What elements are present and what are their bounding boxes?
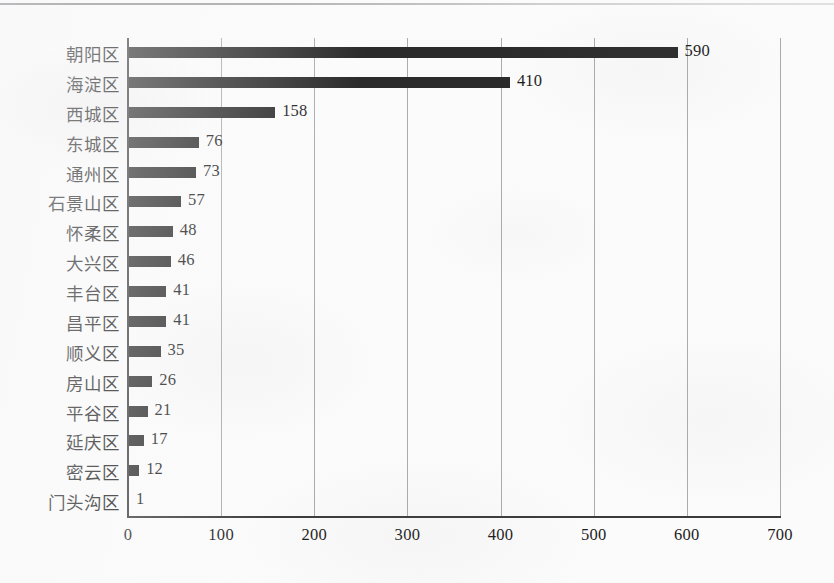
- bar-row: 48: [128, 217, 780, 246]
- bar-value-label: 46: [178, 250, 195, 270]
- bar-value-label: 410: [517, 71, 542, 91]
- bar: [128, 107, 275, 118]
- category-label: 通州区: [0, 161, 120, 186]
- y-axis-line: [127, 38, 129, 517]
- bar-value-label: 35: [168, 340, 185, 360]
- category-label: 顺义区: [0, 340, 120, 365]
- scan-edge-line: [0, 3, 834, 5]
- bar-row: 1: [128, 486, 780, 515]
- bar: [128, 226, 173, 237]
- category-axis-labels: 朝阳区海淀区西城区东城区通州区石景山区怀柔区大兴区丰台区昌平区顺义区房山区平谷区…: [0, 38, 120, 516]
- bar-row: 410: [128, 68, 780, 97]
- bar-row: 76: [128, 128, 780, 157]
- bar: [128, 137, 199, 148]
- x-tick-label: 700: [767, 525, 793, 545]
- bar: [128, 196, 181, 207]
- bar-row: 12: [128, 456, 780, 485]
- bar-row: 73: [128, 158, 780, 187]
- category-label: 石景山区: [0, 190, 120, 215]
- bar-row: 26: [128, 367, 780, 396]
- bar: [128, 256, 171, 267]
- x-tick-label: 300: [395, 525, 421, 545]
- x-tick-label: 100: [208, 525, 234, 545]
- gridline: [780, 38, 781, 516]
- category-label: 丰台区: [0, 280, 120, 305]
- bar: [128, 167, 196, 178]
- x-tick-label: 0: [124, 525, 133, 545]
- bar-value-label: 57: [188, 190, 205, 210]
- x-axis-line: [127, 516, 781, 518]
- bar-value-label: 41: [173, 280, 190, 300]
- bar: [128, 435, 144, 446]
- bar-row: 21: [128, 397, 780, 426]
- bar-value-label: 158: [282, 101, 307, 121]
- category-label: 密云区: [0, 459, 120, 484]
- bar-row: 46: [128, 247, 780, 276]
- bar-chart-figure: 朝阳区海淀区西城区东城区通州区石景山区怀柔区大兴区丰台区昌平区顺义区房山区平谷区…: [0, 0, 834, 583]
- category-label: 东城区: [0, 131, 120, 156]
- bar-row: 17: [128, 426, 780, 455]
- category-label: 怀柔区: [0, 220, 120, 245]
- bar: [128, 316, 166, 327]
- category-label: 平谷区: [0, 400, 120, 425]
- x-tick-label: 400: [488, 525, 514, 545]
- bar: [128, 346, 161, 357]
- x-tick-label: 500: [581, 525, 607, 545]
- bar: [128, 77, 510, 88]
- bar: [128, 286, 166, 297]
- bar-row: 590: [128, 38, 780, 67]
- bar-value-label: 26: [159, 370, 176, 390]
- category-label: 朝阳区: [0, 41, 120, 66]
- x-tick-label: 600: [674, 525, 700, 545]
- bar: [128, 47, 678, 58]
- category-label: 大兴区: [0, 250, 120, 275]
- bar-row: 35: [128, 337, 780, 366]
- bar-value-label: 12: [146, 459, 163, 479]
- bar-value-label: 76: [206, 131, 223, 151]
- bar-value-label: 590: [685, 41, 710, 61]
- x-tick-label: 200: [301, 525, 327, 545]
- bar-row: 158: [128, 98, 780, 127]
- bar-value-label: 48: [180, 220, 197, 240]
- bar: [128, 376, 152, 387]
- bar-row: 41: [128, 277, 780, 306]
- category-label: 门头沟区: [0, 489, 120, 514]
- bar: [128, 406, 148, 417]
- category-label: 房山区: [0, 370, 120, 395]
- bar-value-label: 73: [203, 161, 220, 181]
- bar-value-label: 41: [173, 310, 190, 330]
- bar-row: 57: [128, 187, 780, 216]
- bar: [128, 465, 139, 476]
- category-label: 昌平区: [0, 310, 120, 335]
- category-label: 延庆区: [0, 429, 120, 454]
- bar-value-label: 1: [136, 489, 144, 509]
- bar-value-label: 17: [151, 429, 168, 449]
- bar-row: 41: [128, 307, 780, 336]
- bar-value-label: 21: [155, 400, 172, 420]
- plot-area: 朝阳区海淀区西城区东城区通州区石景山区怀柔区大兴区丰台区昌平区顺义区房山区平谷区…: [128, 38, 780, 516]
- category-label: 海淀区: [0, 71, 120, 96]
- category-label: 西城区: [0, 101, 120, 126]
